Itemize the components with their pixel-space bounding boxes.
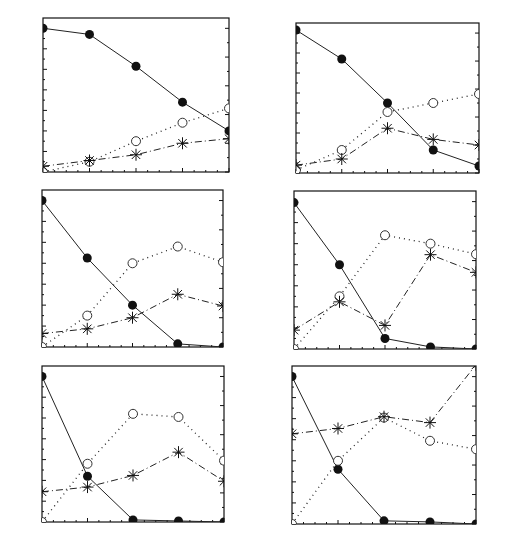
plot-frame [292,366,476,524]
series-xylose [292,26,484,171]
filled-circle-marker [337,55,346,64]
asterisk-marker [173,446,185,458]
plot-frame [42,366,224,522]
open-circle-marker [381,231,390,240]
filled-circle-marker [83,472,92,481]
chart-panel-a [37,18,235,177]
series-xylitol [38,409,229,526]
filled-circle-marker [83,254,92,263]
asterisk-marker [290,159,302,171]
filled-circle-marker [85,30,94,39]
filled-circle-marker [429,146,438,155]
asterisk-marker [336,153,348,165]
series-cell-concentration [286,359,482,440]
filled-circle-marker [128,301,137,310]
series-xylitol [38,242,228,351]
series-xylose [38,196,228,352]
open-circle-marker [472,445,481,454]
filled-circle-marker [472,345,481,354]
filled-circle-marker [129,515,138,524]
series-line [292,365,476,434]
series-line [294,235,476,349]
asterisk-marker [470,359,482,371]
plot-area [36,196,229,352]
filled-circle-marker [381,334,390,343]
open-circle-marker [38,518,47,527]
open-circle-marker [219,258,228,267]
open-circle-marker [472,250,481,259]
filled-circle-marker [292,26,301,35]
y-axis-left [296,33,300,173]
open-circle-marker [426,239,435,248]
asterisk-marker [37,160,49,172]
series-line [292,418,476,524]
asterisk-marker [473,139,485,151]
asterisk-marker [470,266,482,278]
series-line [43,28,229,131]
asterisk-marker [379,319,391,331]
filled-circle-marker [174,516,183,525]
asterisk-marker [334,296,346,308]
open-circle-marker [83,459,92,468]
chart-panel-e [36,366,230,527]
asterisk-marker [172,288,184,300]
asterisk-marker [81,323,93,335]
series-line [292,377,476,524]
y-axis-right [220,376,224,522]
open-circle-marker [426,436,435,445]
series-line [296,30,479,166]
asterisk-marker [382,122,394,134]
open-circle-marker [128,259,137,268]
x-axis [296,169,479,173]
asterisk-marker [425,249,437,261]
plot-area [286,359,482,529]
asterisk-marker [82,481,94,493]
open-circle-marker [38,343,47,352]
open-circle-marker [174,412,183,421]
open-circle-marker [132,137,141,146]
asterisk-marker [177,137,189,149]
asterisk-marker [286,428,298,440]
asterisk-marker [36,328,48,340]
asterisk-marker [332,422,344,434]
series-cell-concentration [36,446,230,498]
open-circle-marker [334,456,343,465]
filled-circle-marker [38,196,47,205]
y-axis-right [225,28,229,172]
asterisk-marker [288,324,300,336]
filled-circle-marker [39,24,48,33]
open-circle-marker [83,311,92,320]
filled-circle-marker [380,516,389,525]
chart-panel-f [286,359,482,529]
x-axis [43,168,229,172]
plot-area [290,26,485,175]
open-circle-marker [383,108,392,117]
asterisk-marker [36,486,48,498]
asterisk-marker [427,133,439,145]
series-xylitol [288,413,481,528]
chart-panel-c [36,190,229,352]
series-line [42,376,224,522]
open-circle-marker [290,345,299,354]
y-axis-left [292,377,296,524]
filled-circle-marker [426,517,435,526]
series-xylose [38,372,229,527]
series-cell-concentration [288,249,482,336]
open-circle-marker [288,520,297,529]
filled-circle-marker [472,520,481,529]
open-circle-marker [129,409,138,418]
filled-circle-marker [220,518,229,527]
filled-circle-marker [38,372,47,381]
open-circle-marker [429,99,438,108]
plot-area [36,372,230,527]
filled-circle-marker [132,62,141,71]
asterisk-marker [130,149,142,161]
y-axis-right [475,33,479,173]
plot-frame [296,23,479,173]
filled-circle-marker [426,342,435,351]
asterisk-marker [84,155,96,167]
asterisk-marker [127,312,139,324]
filled-circle-marker [290,198,299,207]
x-axis [294,345,476,349]
open-circle-marker [220,456,229,465]
